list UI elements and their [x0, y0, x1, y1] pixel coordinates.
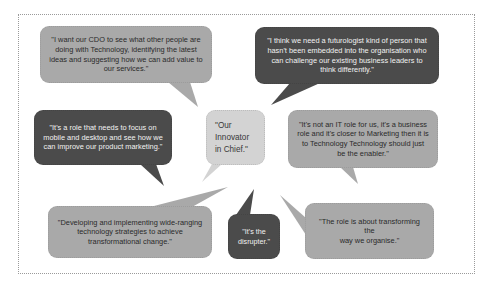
quote-text: "The role is about transforming the way … [314, 217, 425, 246]
quote-bubble-mobile-desktop: "It's a role that needs to focus on mobi… [34, 110, 172, 165]
quote-text: "It's the disrupter." [238, 227, 270, 246]
tail-transforming [280, 195, 306, 235]
tail-disrupter [236, 189, 254, 215]
quote-bubble-transforming-organise: "The role is about transforming the way … [305, 203, 434, 259]
tail-mobile-desktop [140, 164, 164, 186]
quote-text: "I think we need a futurologist kind of … [264, 36, 430, 74]
quote-text: "It's not an IT role for us, it's a busi… [297, 120, 429, 158]
quote-bubble-futurologist: "I think we need a futurologist kind of … [255, 27, 439, 84]
center-text: "Our Innovator in Chief." [215, 120, 249, 156]
quote-bubble-developing-strategies: "Developing and implementing wide-rangin… [48, 206, 212, 258]
quote-text: "Developing and implementing wide-rangin… [57, 218, 203, 247]
quote-text: "It's a role that needs to focus on mobi… [43, 123, 163, 152]
quote-bubble-cdo: "I want our CDO to see what other people… [40, 26, 212, 83]
quote-bubble-not-it-role: "It's not an IT role for us, it's a busi… [288, 110, 438, 168]
quote-text: "I want our CDO to see what other people… [49, 35, 203, 73]
tail-developing [150, 187, 228, 207]
quote-bubble-disrupter: "It's the disrupter." [228, 214, 280, 259]
tail-cdo [168, 82, 198, 107]
tail-not-it-role [340, 167, 358, 184]
tail-futurologist [271, 83, 320, 105]
center-bubble-innovator-in-chief: "Our Innovator in Chief." [206, 110, 265, 165]
tail-center [202, 164, 222, 182]
